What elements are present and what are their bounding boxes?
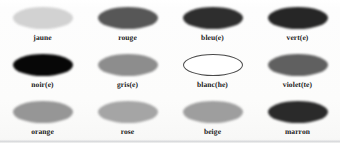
color-swatch-grid: jaunerougebleu(e)vert(e)noir(e)gris(e)bl… bbox=[0, 0, 340, 143]
swatch-container bbox=[267, 100, 329, 124]
swatch-container bbox=[182, 100, 244, 124]
swatch-orange bbox=[13, 101, 73, 123]
swatch-label: marron bbox=[285, 128, 310, 136]
swatch-container bbox=[97, 6, 159, 30]
swatch-container bbox=[12, 6, 74, 30]
swatch-container bbox=[182, 6, 244, 30]
swatch-gris bbox=[98, 54, 158, 76]
swatch-container bbox=[182, 53, 244, 77]
color-cell: jaune bbox=[0, 6, 85, 53]
swatch-noir bbox=[13, 54, 73, 76]
color-cell: gris(e) bbox=[85, 53, 170, 100]
color-cell: violet(te) bbox=[255, 53, 340, 100]
swatch-violet bbox=[268, 54, 328, 76]
swatch-rose bbox=[98, 101, 158, 123]
swatch-jaune bbox=[13, 7, 73, 29]
swatch-label: orange bbox=[31, 128, 54, 136]
color-cell: bleu(e) bbox=[170, 6, 255, 53]
swatch-label: vert(e) bbox=[287, 34, 309, 42]
swatch-beige bbox=[183, 101, 243, 123]
swatch-label: beige bbox=[204, 128, 221, 136]
scanned-page: jaunerougebleu(e)vert(e)noir(e)gris(e)bl… bbox=[0, 0, 340, 153]
swatch-container bbox=[12, 100, 74, 124]
color-cell: marron bbox=[255, 100, 340, 147]
swatch-label: gris(e) bbox=[117, 81, 138, 89]
swatch-container bbox=[267, 6, 329, 30]
swatch-vert bbox=[268, 7, 328, 29]
swatch-label: jaune bbox=[33, 34, 51, 42]
color-cell: beige bbox=[170, 100, 255, 147]
swatch-marron bbox=[268, 101, 328, 123]
swatch-container bbox=[12, 53, 74, 77]
swatch-label: bleu(e) bbox=[201, 34, 224, 42]
swatch-label: rose bbox=[121, 128, 135, 136]
swatch-label: noir(e) bbox=[31, 81, 53, 89]
color-cell: rouge bbox=[85, 6, 170, 53]
swatch-bleu bbox=[183, 7, 243, 29]
swatch-container bbox=[267, 53, 329, 77]
swatch-label: violet(te) bbox=[283, 81, 312, 89]
color-cell: blanc(he) bbox=[170, 53, 255, 100]
swatch-label: blanc(he) bbox=[197, 81, 228, 89]
color-cell: rose bbox=[85, 100, 170, 147]
swatch-rouge bbox=[98, 7, 158, 29]
swatch-container bbox=[97, 100, 159, 124]
color-cell: vert(e) bbox=[255, 6, 340, 53]
color-cell: orange bbox=[0, 100, 85, 147]
swatch-container bbox=[97, 53, 159, 77]
swatch-label: rouge bbox=[118, 34, 137, 42]
color-cell: noir(e) bbox=[0, 53, 85, 100]
swatch-blanc bbox=[183, 54, 243, 76]
